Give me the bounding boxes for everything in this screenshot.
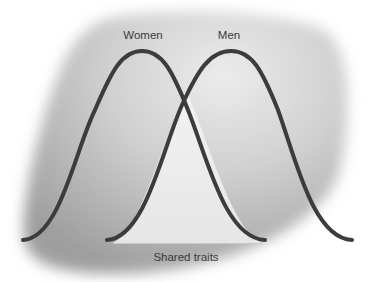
men-label: Men bbox=[218, 29, 240, 41]
shared-traits-label: Shared traits bbox=[153, 251, 218, 263]
women-label: Women bbox=[123, 29, 162, 41]
diagram-svg bbox=[0, 0, 371, 282]
diagram-canvas: Women Men Shared traits bbox=[0, 0, 371, 282]
